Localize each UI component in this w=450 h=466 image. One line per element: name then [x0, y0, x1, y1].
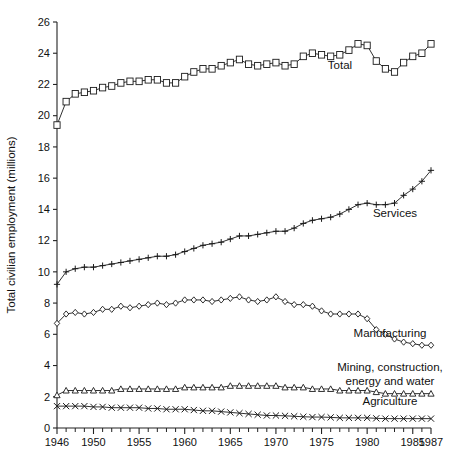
series-label-manufacturing: Manufacturing — [354, 327, 427, 339]
data-point-marker — [127, 78, 133, 85]
data-point-marker — [236, 56, 242, 63]
x-axis-tick-label: 1965 — [218, 436, 242, 448]
data-point-marker — [72, 91, 78, 98]
x-axis-tick-label: 1987 — [419, 436, 443, 448]
series-label-total: Total — [328, 59, 352, 71]
data-point-marker — [81, 89, 87, 96]
x-axis-tick-label: 1950 — [81, 436, 105, 448]
chart-canvas: Total civilian employment (millions) 024… — [0, 0, 450, 466]
data-point-marker — [200, 66, 206, 73]
data-point-marker — [255, 62, 261, 69]
data-point-marker — [364, 42, 370, 49]
data-point-marker — [145, 76, 151, 83]
data-point-marker — [182, 73, 188, 80]
data-point-marker — [109, 83, 115, 90]
data-point-marker — [282, 62, 288, 69]
series-label-mining: Mining, construction, — [337, 361, 442, 373]
data-point-marker — [63, 98, 69, 105]
data-point-marker — [209, 66, 215, 73]
data-point-marker — [419, 50, 425, 57]
y-axis-tick-label: 0 — [44, 422, 50, 434]
employment-line-chart: Total civilian employment (millions) 024… — [0, 0, 450, 466]
data-point-marker — [300, 53, 306, 60]
x-axis-tick-label: 1960 — [172, 436, 196, 448]
series-label-services: Services — [373, 207, 417, 219]
data-point-marker — [54, 122, 60, 129]
data-point-marker — [410, 53, 416, 60]
x-axis-tick-label: 1955 — [127, 436, 151, 448]
data-point-marker — [346, 47, 352, 54]
data-point-marker — [337, 51, 343, 58]
y-axis-tick-label: 2 — [44, 391, 50, 403]
data-point-marker — [172, 80, 178, 87]
y-axis-tick-label: 10 — [38, 266, 50, 278]
data-point-marker — [318, 51, 324, 58]
y-axis-tick-label: 12 — [38, 234, 50, 246]
data-point-marker — [382, 66, 388, 73]
data-point-marker — [218, 62, 224, 69]
y-axis-tick-label: 18 — [38, 141, 50, 153]
data-point-marker — [136, 78, 142, 85]
data-point-marker — [401, 59, 407, 66]
y-axis-tick-label: 8 — [44, 297, 50, 309]
data-point-marker — [90, 87, 96, 94]
data-point-marker — [428, 41, 434, 48]
data-point-marker — [355, 41, 361, 48]
data-point-marker — [373, 58, 379, 65]
x-axis-tick-label: 1946 — [45, 436, 69, 448]
y-axis-tick-label: 24 — [38, 47, 50, 59]
y-axis-tick-label: 6 — [44, 328, 50, 340]
data-point-marker — [309, 50, 315, 57]
data-point-marker — [291, 61, 297, 68]
data-point-marker — [245, 61, 251, 68]
data-point-marker — [227, 59, 233, 66]
data-point-marker — [191, 69, 197, 76]
x-axis-tick-label: 1970 — [264, 436, 288, 448]
data-point-marker — [118, 80, 124, 87]
x-axis-tick-label: 1975 — [309, 436, 333, 448]
data-point-marker — [154, 76, 160, 83]
data-point-marker — [264, 61, 270, 68]
data-point-marker — [100, 84, 106, 91]
data-point-marker — [273, 59, 279, 66]
y-axis-tick-label: 22 — [38, 78, 50, 90]
y-axis-title: Total civilian employment (millions) — [5, 136, 17, 313]
y-axis-tick-label: 26 — [38, 16, 50, 28]
x-axis-tick-label: 1980 — [355, 436, 379, 448]
data-point-marker — [391, 69, 397, 76]
y-axis-tick-label: 14 — [38, 203, 50, 215]
y-axis-tick-label: 4 — [44, 359, 50, 371]
series-label-agriculture: Agriculture — [363, 395, 418, 407]
series-label-mining: energy and water — [346, 375, 435, 387]
data-point-marker — [163, 80, 169, 87]
y-axis-tick-label: 16 — [38, 172, 50, 184]
y-axis-tick-label: 20 — [38, 109, 50, 121]
